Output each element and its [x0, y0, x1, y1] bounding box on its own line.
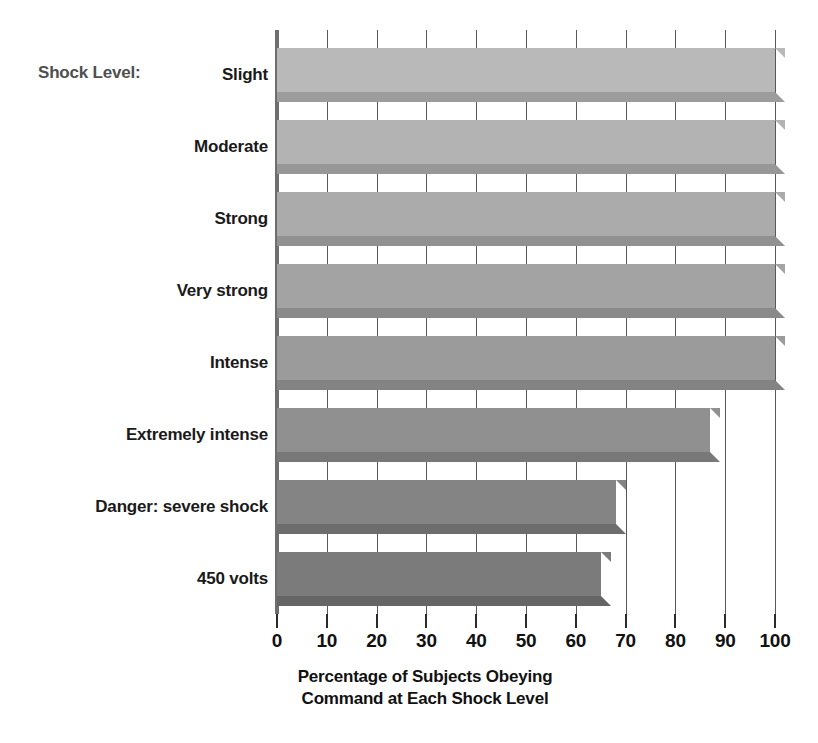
gridline-100: [775, 30, 776, 614]
bar-body: [277, 336, 775, 380]
bar-8[interactable]: [277, 552, 601, 606]
bar-face: [277, 192, 775, 236]
x-tick-label-60: 60: [566, 630, 587, 652]
gridline-90: [725, 30, 726, 614]
x-tick-40: [475, 614, 477, 628]
x-axis-title-line-1: Percentage of Subjects Obeying: [175, 666, 675, 688]
bar-body: [277, 480, 616, 524]
bar-body: [277, 264, 775, 308]
category-label-2: Moderate: [194, 137, 268, 157]
bar-face: [277, 552, 601, 596]
bar-2[interactable]: [277, 120, 775, 174]
x-tick-60: [575, 614, 577, 628]
x-tick-20: [376, 614, 378, 628]
category-label-1: Slight: [222, 65, 268, 85]
x-tick-label-0: 0: [272, 630, 282, 652]
bar-shadow: [277, 236, 775, 246]
bar-end-bevel: [775, 336, 785, 346]
gridline-70: [626, 30, 627, 614]
category-label-row: Strong: [0, 192, 268, 246]
x-tick-label-50: 50: [516, 630, 537, 652]
x-tick-label-20: 20: [366, 630, 387, 652]
bar-1[interactable]: [277, 48, 775, 102]
bar-5[interactable]: [277, 336, 775, 390]
x-tick-90: [724, 614, 726, 628]
bar-7[interactable]: [277, 480, 616, 534]
plot-area: 0102030405060708090100: [277, 30, 775, 606]
series-caption: Shock Level:: [38, 63, 140, 83]
bar-shadow: [277, 452, 710, 462]
x-tick-label-90: 90: [715, 630, 736, 652]
bar-body: [277, 408, 710, 452]
category-label-5: Intense: [210, 353, 268, 373]
bar-face: [277, 264, 775, 308]
bar-body: [277, 48, 775, 92]
bar-shadow: [277, 92, 775, 102]
x-tick-0: [276, 614, 278, 628]
category-label-7: Danger: severe shock: [95, 497, 268, 517]
bar-body: [277, 552, 601, 596]
bar-face: [277, 408, 710, 452]
bar-face: [277, 48, 775, 92]
bar-body: [277, 192, 775, 236]
category-label-3: Strong: [214, 209, 268, 229]
x-axis-title-line-2: Command at Each Shock Level: [175, 688, 675, 710]
bar-end-bevel: [775, 192, 785, 202]
category-label-row: Extremely intense: [0, 408, 268, 462]
x-tick-label-40: 40: [466, 630, 487, 652]
x-tick-label-70: 70: [615, 630, 636, 652]
bar-end-bevel: [616, 480, 626, 490]
category-axis-labels: SlightModerateStrongVery strongIntenseEx…: [0, 30, 268, 606]
gridline-80: [675, 30, 676, 614]
bar-body: [277, 120, 775, 164]
category-label-row: Danger: severe shock: [0, 480, 268, 534]
bar-end-bevel: [775, 48, 785, 58]
x-tick-10: [326, 614, 328, 628]
bar-face: [277, 336, 775, 380]
category-label-row: Very strong: [0, 264, 268, 318]
category-label-6: Extremely intense: [126, 425, 268, 445]
x-tick-label-80: 80: [665, 630, 686, 652]
bar-end-bevel: [775, 264, 785, 274]
x-tick-label-30: 30: [416, 630, 437, 652]
x-tick-70: [625, 614, 627, 628]
x-tick-label-100: 100: [760, 630, 791, 652]
bar-6[interactable]: [277, 408, 710, 462]
category-label-row: Intense: [0, 336, 268, 390]
bar-shadow: [277, 524, 616, 534]
category-label-4: Very strong: [177, 281, 268, 301]
bar-4[interactable]: [277, 264, 775, 318]
bar-face: [277, 120, 775, 164]
bar-shadow: [277, 380, 775, 390]
x-tick-80: [674, 614, 676, 628]
bar-3[interactable]: [277, 192, 775, 246]
x-axis-title: Percentage of Subjects Obeying Command a…: [175, 666, 675, 711]
x-tick-label-10: 10: [317, 630, 338, 652]
bar-end-bevel: [775, 120, 785, 130]
x-tick-50: [525, 614, 527, 628]
bar-shadow: [277, 596, 601, 606]
category-label-row: Moderate: [0, 120, 268, 174]
bar-face: [277, 480, 616, 524]
bar-end-bevel: [710, 408, 720, 418]
x-tick-100: [774, 614, 776, 628]
category-label-8: 450 volts: [197, 569, 268, 589]
category-label-row: 450 volts: [0, 552, 268, 606]
horizontal-bar-chart: SlightModerateStrongVery strongIntenseEx…: [0, 0, 818, 743]
x-tick-30: [425, 614, 427, 628]
bar-end-bevel: [601, 552, 611, 562]
bar-shadow: [277, 308, 775, 318]
bar-shadow: [277, 164, 775, 174]
